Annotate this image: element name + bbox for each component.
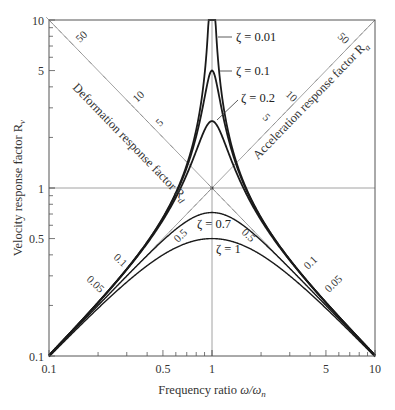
- rd-tick: [217, 193, 220, 196]
- x-tick-5: 5: [323, 362, 329, 376]
- x-axis-title: Frequency ratio ω/ωn: [158, 383, 266, 399]
- rd-label-50: 50: [73, 28, 90, 45]
- ra-label-50: 50: [336, 30, 353, 47]
- rd-label-0-05: 0.05: [322, 272, 345, 294]
- ra-tick: [278, 117, 281, 120]
- rd-tick: [79, 51, 82, 54]
- rd-tick: [146, 120, 149, 123]
- x-tick-0-5: 0.5: [156, 362, 171, 376]
- ra-tick: [340, 53, 343, 56]
- ra-tick: [199, 198, 202, 201]
- deformation-axis-title: Deformation response factor Rd: [68, 80, 190, 206]
- x-tick-0-1: 0.1: [42, 362, 57, 376]
- zeta-0-01-label: ζ = 0.01: [236, 30, 276, 44]
- rd-tick: [131, 105, 134, 108]
- rd-tick: [170, 145, 173, 148]
- rd-tick: [54, 25, 57, 28]
- rd-tick: [232, 209, 236, 213]
- ra-tick: [248, 148, 251, 151]
- x-tick-10: 10: [369, 362, 381, 376]
- ra-label-5: 5: [261, 111, 274, 124]
- rd-tick: [103, 76, 106, 79]
- y-tick-0-5: 0.5: [29, 232, 44, 246]
- velocity-response-chart: 10 5 1 0.5 0.1 0.1 0.5 1 5 10 Frequency …: [0, 0, 395, 410]
- rd-tick: [69, 41, 73, 45]
- ra-label-0-5: 0.5: [240, 226, 259, 245]
- zeta-0-1-label: ζ = 0.1: [236, 64, 270, 78]
- y-tick-10: 10: [32, 14, 44, 28]
- rd-tick: [59, 30, 62, 33]
- rd-tick: [140, 114, 143, 117]
- ra-tick: [208, 188, 212, 192]
- ra-tick: [360, 33, 363, 36]
- ra-tick: [330, 64, 333, 67]
- ra-tick: [258, 137, 261, 140]
- ra-tick: [315, 79, 318, 82]
- rd-tick: [136, 109, 139, 112]
- rd-tick: [160, 135, 163, 138]
- rd-tick: [227, 204, 230, 207]
- rd-tick: [151, 125, 155, 129]
- ra-tick: [187, 209, 191, 213]
- ra-label-0-1: 0.1: [112, 251, 130, 269]
- ra-tick: [273, 123, 276, 126]
- ra-tick: [364, 28, 367, 31]
- zeta-1-label: ζ = 1: [216, 242, 241, 256]
- rd-tick: [126, 100, 130, 104]
- y-tick-1: 1: [38, 182, 44, 196]
- ra-tick: [169, 229, 172, 232]
- ra-tick: [204, 193, 207, 196]
- rd-label-5: 5: [153, 116, 166, 129]
- ra-tick: [180, 219, 183, 222]
- y-axis-title: Velocity response factor Rv: [11, 120, 27, 256]
- ra-tick: [354, 39, 357, 42]
- rd-tick: [213, 189, 216, 192]
- y-tick-5: 5: [38, 64, 44, 78]
- rd-tick: [50, 21, 53, 24]
- rd-label-0-5: 0.5: [171, 226, 190, 245]
- zeta-0-2-label: ζ = 0.2: [241, 91, 275, 105]
- rd-tick: [89, 61, 92, 64]
- x-tick-1: 1: [209, 362, 215, 376]
- zeta-0-7-label: ζ = 0.7: [197, 217, 231, 231]
- rd-tick: [64, 36, 67, 39]
- ra-tick: [194, 204, 197, 207]
- rd-tick: [208, 184, 212, 188]
- ra-label-0-05: 0.05: [85, 273, 108, 295]
- rd-tick: [242, 219, 245, 222]
- ra-tick: [368, 24, 371, 27]
- rd-label-0-1: 0.1: [301, 253, 319, 271]
- rd-tick: [222, 198, 225, 201]
- ra-tick: [283, 112, 286, 115]
- rd-label-10: 10: [130, 88, 147, 105]
